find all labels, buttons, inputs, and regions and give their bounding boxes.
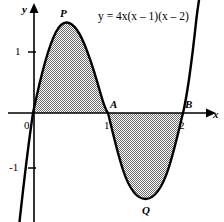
- y-tick-label-neg1: -1: [9, 162, 18, 173]
- equation-label: y = 4x(x – 1)(x – 2): [98, 11, 189, 23]
- y-axis-label: y: [22, 4, 27, 15]
- y-tick-label-1: 1: [15, 46, 21, 57]
- x-axis-label: x: [213, 109, 219, 120]
- plot-canvas: [0, 0, 224, 222]
- y-axis-arrowhead: [30, 3, 39, 13]
- point-label-P: P: [60, 8, 67, 19]
- point-label-Q: Q: [142, 205, 150, 216]
- cubic-curve-figure: y x 0 1 -1 1 2 P Q A B y = 4x(x – 1)(x –…: [0, 0, 224, 222]
- point-label-A: A: [110, 99, 117, 110]
- point-label-B: B: [185, 99, 192, 110]
- x-tick-label-2: 2: [179, 120, 185, 131]
- x-tick-label-1: 1: [104, 120, 110, 131]
- origin-label: 0: [24, 120, 30, 131]
